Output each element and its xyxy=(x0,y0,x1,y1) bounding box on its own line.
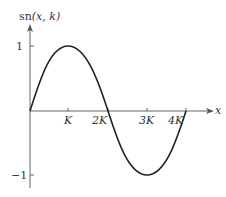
y-tick-label-1: 1 xyxy=(16,40,23,53)
x-axis-label: x xyxy=(215,104,222,117)
x-tick-label-4k: 4K xyxy=(167,114,184,127)
x-tick-label-k: K xyxy=(63,114,73,127)
x-tick-label-3k: 3K xyxy=(139,114,155,127)
x-tick-label-2k: 2K xyxy=(91,114,108,127)
sn-function-chart: sn(x, k) x 1 −1 K 2K 3K 4K xyxy=(0,0,226,197)
y-tick-label-m1: −1 xyxy=(11,169,27,182)
y-axis-label: sn(x, k) xyxy=(19,10,60,23)
